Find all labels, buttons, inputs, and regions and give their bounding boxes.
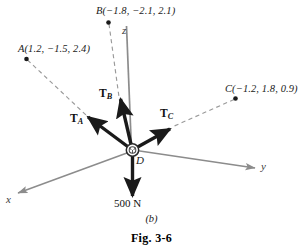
panel-letter: (b): [0, 213, 303, 224]
point-marker-c: [233, 96, 238, 101]
guide-line-to-c: [172, 100, 234, 128]
vector-subscript-ta: A: [78, 117, 83, 126]
point-marker-a: [24, 57, 29, 62]
point-marker-b: [106, 20, 111, 25]
vector-subscript-tc: C: [168, 112, 173, 121]
point-label-b: B(−1.8, −2.1, 2.1): [96, 6, 175, 17]
axis-label-z: z: [122, 25, 126, 36]
point-label-c: C(−1.2, 1.8, 0.9): [225, 84, 298, 95]
vector-tc-arrow: [134, 129, 170, 149]
figure-3-6b: A(1.2, −1.5, 2.4) B(−1.8, −2.1, 2.1) C(−…: [0, 0, 303, 252]
guide-line-to-b: [109, 24, 119, 97]
vector-symbol-tb: T: [99, 87, 107, 99]
vector-label-tb: TB: [99, 88, 112, 101]
x-axis-line: [18, 152, 131, 194]
vector-label-tc: TC: [160, 108, 173, 121]
point-markers-group: [24, 20, 238, 101]
axis-label-y: y: [261, 161, 266, 172]
y-axis-line: [133, 150, 255, 168]
figure-caption: Fig. 3-6: [0, 231, 303, 246]
vector-subscript-tb: B: [107, 92, 112, 101]
point-label-a: A(1.2, −1.5, 2.4): [18, 44, 90, 55]
vector-symbol-tc: T: [160, 107, 168, 119]
axis-label-x: x: [6, 194, 11, 205]
caption-block: (b) Fig. 3-6: [0, 213, 303, 246]
node-label-d: D: [136, 155, 144, 166]
vector-symbol-ta: T: [70, 112, 78, 124]
load-label: 500 N: [114, 198, 141, 209]
vector-label-ta: TA: [70, 113, 83, 126]
guide-line-to-a: [28, 60, 87, 115]
